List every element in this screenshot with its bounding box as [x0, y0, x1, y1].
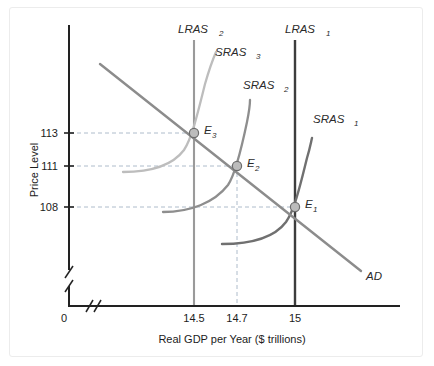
x-axis-title: Real GDP per Year ($ trillions): [158, 333, 305, 345]
marker-e2: [232, 161, 241, 170]
eq-label-e2: E 2: [247, 157, 260, 173]
curve-label-lras2-sub: 2: [218, 29, 224, 38]
x-tick-label-15: 15: [289, 312, 301, 324]
y-axis-title: Price Level: [28, 143, 40, 197]
eq-label-e2-base: E: [247, 157, 255, 169]
eq-label-e3-base: E: [204, 124, 212, 136]
curve-label-sras2: SRAS 2: [243, 79, 289, 94]
curve-label-lras1-sub: 1: [326, 29, 330, 38]
eq-label-e1: E 1: [305, 198, 317, 214]
y-tick-label-113: 113: [40, 127, 58, 139]
curve-label-sras2-sub: 2: [283, 85, 289, 94]
y-tick-label-108: 108: [40, 201, 58, 213]
curve-label-sras3: SRAS 3: [215, 46, 261, 61]
marker-e3: [189, 128, 198, 137]
curve-label-sras1: SRAS 1: [313, 113, 358, 128]
marker-e1: [290, 202, 299, 211]
curve-label-sras3-sub: 3: [256, 52, 261, 61]
eq-label-e2-sub: 2: [254, 164, 260, 173]
equilibrium-markers: [189, 128, 299, 211]
curve-sras3: [123, 52, 216, 172]
curve-label-lras1-base: LRAS: [285, 23, 315, 35]
ad-as-chart: 113 111 108 14.5 14.7 15 0 Real GDP per …: [0, 0, 434, 366]
curve-label-lras2: LRAS 2: [178, 23, 224, 38]
curve-label-ad: AD: [365, 270, 382, 282]
x-tick-label-14-5: 14.5: [183, 312, 204, 324]
origin-label: 0: [61, 312, 67, 324]
gridlines: [70, 133, 295, 306]
curve-label-lras2-base: LRAS: [178, 23, 208, 35]
eq-label-e1-sub: 1: [313, 205, 317, 214]
curve-label-sras1-sub: 1: [354, 119, 358, 128]
curve-label-sras3-base: SRAS: [215, 46, 247, 58]
x-tick-label-14-7: 14.7: [226, 312, 247, 324]
y-tick-label-111: 111: [41, 160, 58, 172]
curve-label-sras2-base: SRAS: [243, 79, 275, 91]
eq-label-e3: E 3: [204, 124, 217, 140]
eq-label-e1-base: E: [305, 198, 313, 210]
curve-label-sras1-base: SRAS: [313, 113, 345, 125]
eq-label-e3-sub: 3: [212, 131, 217, 140]
curve-sras1: [222, 138, 312, 244]
figure-root: 113 111 108 14.5 14.7 15 0 Real GDP per …: [0, 0, 434, 366]
curve-ad: [100, 64, 361, 271]
curve-label-lras1: LRAS 1: [285, 23, 330, 38]
